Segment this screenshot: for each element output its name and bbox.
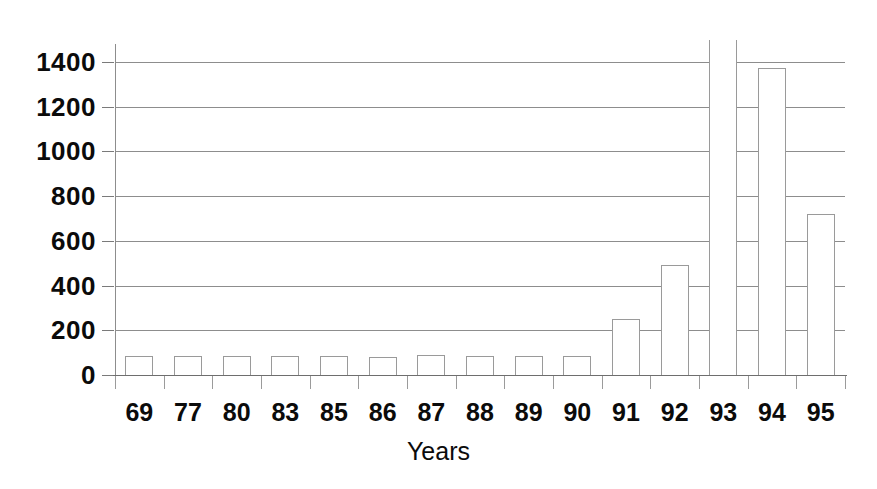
x-axis-tick-label: 86 [369, 398, 397, 427]
bar[interactable] [758, 68, 786, 375]
x-axis-tick-label: 87 [417, 398, 445, 427]
plot-area [115, 62, 845, 375]
y-axis-tick [102, 151, 114, 152]
bar[interactable] [807, 214, 835, 375]
x-axis-tick [456, 376, 457, 389]
x-axis-tick-label: 83 [271, 398, 299, 427]
x-axis-tick-label: 93 [709, 398, 737, 427]
x-axis-tick [164, 376, 165, 389]
bar[interactable] [174, 356, 202, 375]
bar-slot [796, 62, 845, 375]
x-axis-title: Years [0, 437, 877, 466]
bar[interactable] [515, 356, 543, 375]
y-axis-tick [102, 62, 114, 63]
x-axis-tick [553, 376, 554, 389]
x-axis-tick [261, 376, 262, 389]
bar[interactable] [612, 319, 640, 375]
bar-slot [650, 62, 699, 375]
bar-slot [310, 62, 359, 375]
x-axis-tick-label: 95 [807, 398, 835, 427]
y-axis-tick-label: 1000 [36, 136, 96, 167]
bar[interactable] [563, 356, 591, 375]
x-axis-tick [212, 376, 213, 389]
bar[interactable] [709, 40, 737, 375]
x-axis-tick [602, 376, 603, 389]
bar-slot [699, 62, 748, 375]
x-axis-tick-label: 89 [515, 398, 543, 427]
chart-canvas: 0200400600800100012001400 69778083858687… [0, 0, 877, 489]
bar[interactable] [417, 355, 445, 375]
x-axis-tick [796, 376, 797, 389]
bar[interactable] [223, 356, 251, 375]
x-axis-tick-label: 90 [563, 398, 591, 427]
bar[interactable] [271, 356, 299, 375]
x-axis-ticks [115, 376, 845, 390]
x-axis-tick [115, 376, 116, 389]
bar[interactable] [369, 357, 397, 375]
bar[interactable] [125, 356, 153, 375]
x-axis-tick-label: 69 [125, 398, 153, 427]
x-axis-tick [748, 376, 749, 389]
bar-slot [456, 62, 505, 375]
y-axis-tick-labels: 0200400600800100012001400 [0, 0, 96, 489]
top-clip-mask [0, 0, 877, 40]
y-axis-tick-label: 400 [51, 270, 96, 301]
y-axis-tick [102, 241, 114, 242]
x-axis-tick [699, 376, 700, 389]
y-axis-tick-label: 0 [81, 360, 96, 391]
x-axis-tick-labels: 697780838586878889909192939495 [115, 398, 845, 432]
x-axis-tick-label: 88 [466, 398, 494, 427]
x-axis-tick [845, 376, 846, 389]
y-axis-tick [102, 107, 114, 108]
bar-slot [504, 62, 553, 375]
x-axis-tick-label: 92 [661, 398, 689, 427]
y-axis-tick-label: 200 [51, 315, 96, 346]
bar-slot [748, 62, 797, 375]
y-axis-tick [102, 196, 114, 197]
bar[interactable] [466, 356, 494, 375]
bar-slot [261, 62, 310, 375]
y-axis-tick-label: 800 [51, 181, 96, 212]
y-axis-tick-label: 600 [51, 225, 96, 256]
y-axis-tick-label: 1400 [36, 47, 96, 78]
x-axis-tick [650, 376, 651, 389]
bar-slot [602, 62, 651, 375]
x-axis-tick-label: 91 [612, 398, 640, 427]
x-axis-tick [358, 376, 359, 389]
x-axis-tick-label: 85 [320, 398, 348, 427]
bar-slot [115, 62, 164, 375]
y-axis-tick-label: 1200 [36, 91, 96, 122]
bar-slot [212, 62, 261, 375]
bar-slot [553, 62, 602, 375]
bar-slot [164, 62, 213, 375]
x-axis-tick-label: 77 [174, 398, 202, 427]
x-axis-tick [407, 376, 408, 389]
y-axis-tick [102, 330, 114, 331]
x-axis-tick [310, 376, 311, 389]
x-axis-tick [504, 376, 505, 389]
y-axis-tick [102, 286, 114, 287]
bar-slot [407, 62, 456, 375]
bar-slot [358, 62, 407, 375]
bar[interactable] [661, 265, 689, 375]
bar[interactable] [320, 356, 348, 375]
bar-series [115, 62, 845, 375]
x-axis-tick-label: 80 [223, 398, 251, 427]
x-axis-tick-label: 94 [758, 398, 786, 427]
